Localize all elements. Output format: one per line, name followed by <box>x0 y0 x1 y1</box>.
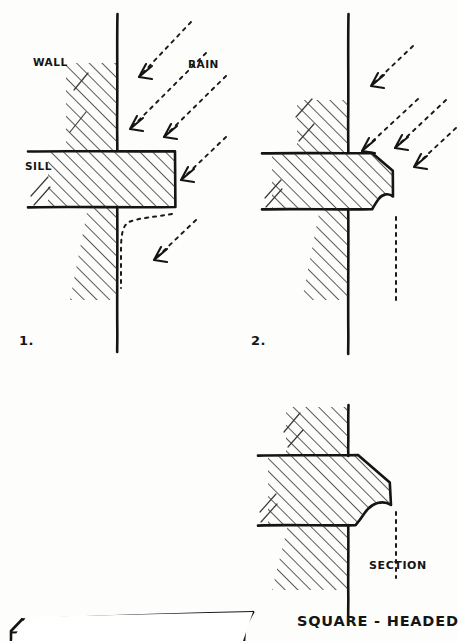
fig3-wall-hatch-upper <box>280 402 352 460</box>
fig1-wall-hatch-upper <box>60 58 122 156</box>
fig1-rain-arrowhead-4 <box>181 167 194 182</box>
fig1-wall-hatch-lower <box>64 205 122 305</box>
detail-drawing-canvas: WALL RAIN SILL 1. <box>0 0 458 641</box>
figure-3-group: SECTION <box>254 402 427 616</box>
fig1-number: 1. <box>19 333 34 348</box>
sheet-title: SQUARE - HEADED <box>297 613 458 629</box>
drawing-sheet: WALL RAIN SILL 1. <box>0 0 458 641</box>
fig2-wall-hatch-upper <box>292 96 352 156</box>
fig3-wall-hatch-lower <box>268 522 352 592</box>
perspective-block-top-face-shading <box>10 610 256 641</box>
perspective-block-group <box>10 610 256 641</box>
fig1-label-wall: WALL <box>33 56 68 68</box>
fig1-rain-ray-1 <box>139 22 191 77</box>
fig1-sill-hatch-stray-1 <box>31 177 48 196</box>
fig3-sill-hatch <box>254 450 396 532</box>
fig2-rain-arrowhead-3 <box>395 135 408 150</box>
fig1-label-sill: SILL <box>25 160 52 172</box>
fig1-water-track-path <box>121 214 196 288</box>
fig3-label-section: SECTION <box>369 559 427 572</box>
figure-2-group: 2. <box>251 14 456 354</box>
figure-1-group: WALL RAIN SILL 1. <box>19 14 226 352</box>
fig1-label-rain: RAIN <box>188 58 219 70</box>
fig1-sill-hatch <box>44 147 180 211</box>
fig2-number: 2. <box>251 333 266 348</box>
fig2-rain-rays <box>362 46 456 169</box>
fig2-wall-hatch-lower <box>296 205 352 305</box>
fig1-rain-arrowhead-3 <box>164 124 177 139</box>
